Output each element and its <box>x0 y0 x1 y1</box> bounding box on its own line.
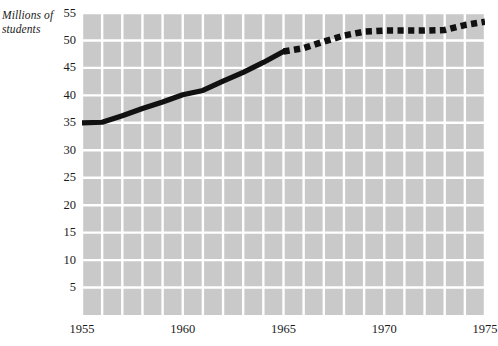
series-line-2 <box>284 22 486 52</box>
y-tick-label: 40 <box>50 89 76 101</box>
x-tick-label: 1970 <box>356 323 412 336</box>
y-tick-label: 5 <box>50 281 76 293</box>
x-tick-label: 1960 <box>155 323 211 336</box>
x-tick-label: 1965 <box>256 323 312 336</box>
y-tick-label: 50 <box>50 34 76 46</box>
x-tick-label: 1975 <box>457 323 498 336</box>
y-tick-label: 35 <box>50 116 76 128</box>
x-tick-label: 1955 <box>54 323 110 336</box>
y-tick-label: 10 <box>50 254 76 266</box>
y-tick-label: 25 <box>50 171 76 183</box>
y-tick-label: 30 <box>50 144 76 156</box>
y-axis-label-line-2: students <box>2 23 41 35</box>
plot-area <box>82 13 485 315</box>
enrollment-line-chart: Millions of students 5550454035302520151… <box>0 0 498 346</box>
y-tick-label: 55 <box>50 7 76 19</box>
x-axis-tick-labels: 19551960196519701975 <box>0 323 498 343</box>
y-axis-tick-labels: 555045403530252015105 <box>44 0 76 346</box>
series-line-1 <box>82 51 284 122</box>
y-tick-label: 15 <box>50 226 76 238</box>
y-tick-label: 20 <box>50 199 76 211</box>
y-tick-label: 45 <box>50 61 76 73</box>
data-series-layer <box>82 13 485 315</box>
